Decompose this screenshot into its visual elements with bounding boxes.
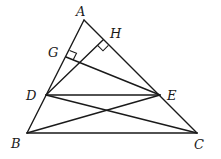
segment-ab: [27, 20, 84, 133]
label-d: D: [25, 88, 37, 103]
label-a: A: [75, 4, 85, 19]
segment-be: [27, 95, 160, 133]
right-angle-marker-h: [98, 45, 109, 51]
label-h: H: [109, 26, 122, 41]
segment-eg: [66, 57, 160, 95]
label-c: C: [194, 137, 204, 152]
geometry-diagram: A H G D E B C: [0, 0, 221, 159]
label-g: G: [48, 45, 58, 60]
label-e: E: [166, 88, 177, 103]
segment-ac: [84, 20, 197, 133]
label-b: B: [10, 136, 21, 151]
